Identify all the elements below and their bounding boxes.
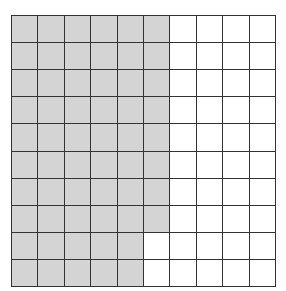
grid-cell-empty: [249, 259, 275, 286]
hundred-grid: [11, 15, 276, 287]
grid-cell-shaded: [11, 15, 37, 42]
grid-cell-shaded: [11, 232, 37, 259]
grid-cell-empty: [169, 151, 195, 178]
grid-cell-shaded: [37, 96, 63, 123]
grid-cell-shaded: [117, 42, 143, 69]
grid-cell-shaded: [11, 123, 37, 150]
grid-cell-shaded: [90, 15, 116, 42]
grid-cell-empty: [222, 259, 248, 286]
grid-cell-shaded: [117, 15, 143, 42]
grid-cell-shaded: [64, 42, 90, 69]
grid-cell-shaded: [143, 151, 169, 178]
grid-cell-shaded: [64, 96, 90, 123]
grid-cell-shaded: [64, 205, 90, 232]
grid-cell-shaded: [64, 69, 90, 96]
grid-cell-empty: [196, 232, 222, 259]
grid-cell-empty: [169, 123, 195, 150]
grid-cell-shaded: [64, 259, 90, 286]
grid-cell-shaded: [117, 151, 143, 178]
grid-cell-empty: [196, 42, 222, 69]
grid-cell-empty: [169, 205, 195, 232]
grid-cell-shaded: [11, 42, 37, 69]
grid-cell-shaded: [117, 123, 143, 150]
grid-cell-shaded: [11, 69, 37, 96]
grid-cell-empty: [249, 232, 275, 259]
grid-cell-empty: [249, 69, 275, 96]
grid-cell-empty: [222, 205, 248, 232]
grid-cell-shaded: [11, 96, 37, 123]
grid-cell-shaded: [143, 42, 169, 69]
grid-cell-empty: [196, 15, 222, 42]
grid-cell-shaded: [90, 69, 116, 96]
grid-cell-shaded: [64, 15, 90, 42]
grid-cell-empty: [249, 15, 275, 42]
grid-cell-shaded: [143, 123, 169, 150]
grid-cell-shaded: [90, 42, 116, 69]
grid-cell-shaded: [117, 205, 143, 232]
grid-cell-empty: [222, 151, 248, 178]
grid-cell-empty: [249, 123, 275, 150]
grid-cell-shaded: [11, 205, 37, 232]
grid-cell-empty: [249, 205, 275, 232]
grid-cell-empty: [196, 259, 222, 286]
grid-cell-shaded: [90, 96, 116, 123]
grid-cell-shaded: [64, 232, 90, 259]
grid-cell-empty: [222, 42, 248, 69]
grid-cell-empty: [222, 123, 248, 150]
grid-cell-empty: [169, 178, 195, 205]
grid-cell-shaded: [64, 123, 90, 150]
grid-cell-shaded: [37, 69, 63, 96]
grid-cell-shaded: [143, 205, 169, 232]
grid-cell-empty: [249, 42, 275, 69]
grid-cell-empty: [222, 69, 248, 96]
grid-cell-empty: [143, 259, 169, 286]
grid-cell-shaded: [90, 178, 116, 205]
grid-cell-shaded: [90, 205, 116, 232]
grid-cell-empty: [249, 151, 275, 178]
grid-cell-shaded: [37, 123, 63, 150]
grid-cell-shaded: [37, 151, 63, 178]
grid-cell-shaded: [143, 178, 169, 205]
grid-cell-empty: [196, 123, 222, 150]
grid-cell-shaded: [37, 205, 63, 232]
grid-cell-shaded: [37, 232, 63, 259]
grid-cell-shaded: [37, 259, 63, 286]
grid-cell-shaded: [11, 178, 37, 205]
grid-cell-empty: [249, 178, 275, 205]
grid-cell-shaded: [117, 178, 143, 205]
grid-cell-empty: [249, 96, 275, 123]
grid-cell-shaded: [64, 178, 90, 205]
grid-cell-empty: [196, 205, 222, 232]
grid-cell-shaded: [117, 96, 143, 123]
grid-cell-shaded: [90, 123, 116, 150]
grid-cell-empty: [196, 178, 222, 205]
grid-cell-shaded: [143, 15, 169, 42]
grid-cell-shaded: [64, 151, 90, 178]
grid-cell-shaded: [37, 15, 63, 42]
grid-cell-shaded: [117, 69, 143, 96]
grid-cell-empty: [169, 96, 195, 123]
grid-cell-empty: [222, 96, 248, 123]
grid-cell-shaded: [11, 151, 37, 178]
grid-cell-empty: [169, 69, 195, 96]
grid-cell-shaded: [11, 259, 37, 286]
grid-cell-empty: [196, 96, 222, 123]
grid-cell-empty: [222, 15, 248, 42]
grid-cell-shaded: [143, 96, 169, 123]
grid-cell-empty: [222, 178, 248, 205]
grid-cell-shaded: [90, 151, 116, 178]
grid-cell-shaded: [37, 42, 63, 69]
grid-cell-shaded: [117, 232, 143, 259]
grid-cell-empty: [196, 151, 222, 178]
grid-cell-shaded: [117, 259, 143, 286]
grid-cell-empty: [169, 232, 195, 259]
grid-cell-empty: [169, 259, 195, 286]
grid-cell-shaded: [90, 259, 116, 286]
grid-cell-empty: [143, 232, 169, 259]
grid-cell-empty: [169, 15, 195, 42]
grid-cell-empty: [196, 69, 222, 96]
grid-cell-shaded: [143, 69, 169, 96]
grid-cell-empty: [169, 42, 195, 69]
grid-cell-shaded: [37, 178, 63, 205]
grid-cell-empty: [222, 232, 248, 259]
